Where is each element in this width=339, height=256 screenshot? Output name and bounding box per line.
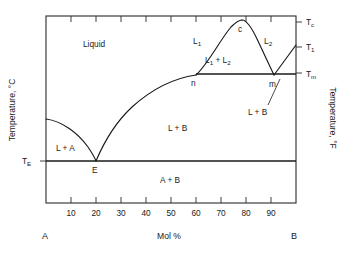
region-label-l-plus-b-callout: L + B <box>248 107 268 117</box>
curve-a-liquidus <box>46 119 96 161</box>
y-label-TE: TE <box>22 156 31 167</box>
region-label-l2: L2 <box>264 36 273 47</box>
region-label-l1: L1 <box>193 36 202 47</box>
x-tick-label-30: 30 <box>116 208 126 218</box>
point-label-m: m <box>269 79 276 89</box>
x-tick-label-90: 90 <box>266 208 276 218</box>
x-tick-labels: 10 20 30 40 50 60 70 80 90 <box>66 208 276 218</box>
y-axis-left-title: Temperature, °C <box>7 79 17 142</box>
x-tick-label-20: 20 <box>91 208 101 218</box>
point-label-c: c <box>238 24 242 34</box>
x-axis-title: Mol % <box>157 231 181 241</box>
x-tick-label-70: 70 <box>216 208 226 218</box>
curve-b-rich-liquidus <box>274 45 296 75</box>
region-label-l-plus-a: L + A <box>56 143 75 153</box>
curve-dome-left <box>196 20 242 75</box>
y-axis-right-title: Temperature, °F <box>328 87 338 149</box>
region-label-l1-l2: L1 + L2 <box>205 55 231 66</box>
phase-diagram-figure: 10 20 30 40 50 60 70 80 90 <box>0 0 339 256</box>
x-tick-label-50: 50 <box>166 208 176 218</box>
curve-b-liquidus <box>96 75 196 161</box>
region-labels: Liquid L1 L2 L1 + L2 L + A L + B A + B L… <box>56 36 273 185</box>
point-label-n: n <box>191 78 196 88</box>
y-axis-right-ticks <box>296 22 302 73</box>
endpoint-label-a: A <box>42 231 48 241</box>
y-label-T1: T1 <box>306 42 315 53</box>
point-label-E: E <box>92 165 98 175</box>
region-label-liquid: Liquid <box>83 39 106 49</box>
point-labels: c n m E <box>92 24 276 175</box>
phase-diagram-svg: 10 20 30 40 50 60 70 80 90 <box>0 0 339 256</box>
x-tick-label-40: 40 <box>141 208 151 218</box>
y-label-Tc: Tc <box>306 17 314 28</box>
y-label-Tm: Tm <box>306 69 316 80</box>
region-label-a-plus-b: A + B <box>160 175 181 185</box>
region-label-l-plus-b: L + B <box>168 123 188 133</box>
x-tick-label-80: 80 <box>241 208 251 218</box>
endpoint-label-b: B <box>291 231 297 241</box>
x-tick-label-60: 60 <box>191 208 201 218</box>
curve-dome-right <box>242 20 274 75</box>
x-tick-label-10: 10 <box>66 208 76 218</box>
